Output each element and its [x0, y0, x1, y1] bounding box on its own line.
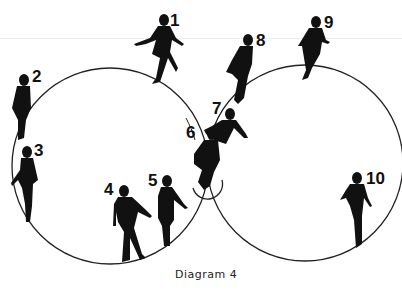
tracing-circles: [0, 0, 402, 290]
skater-label-6: 6: [186, 124, 195, 141]
skater-4-icon: [113, 185, 152, 262]
skater-label-5: 5: [148, 172, 157, 189]
skater-8-icon: [226, 34, 253, 104]
skater-5-icon: [158, 175, 188, 246]
skater-label-3: 3: [34, 142, 43, 159]
left-circle: [12, 68, 208, 264]
skater-label-4: 4: [104, 181, 113, 198]
diagram-caption: Diagram 4: [175, 268, 237, 281]
figure-eight-diagram: 1 2 3 4 5 6 7 8 9 10 Diagram 4: [0, 0, 402, 290]
skater-label-2: 2: [32, 68, 41, 85]
skater-label-1: 1: [170, 12, 179, 29]
skater-2-icon: [12, 74, 31, 140]
skater-label-8: 8: [256, 32, 265, 49]
skater-label-7: 7: [212, 100, 221, 117]
skater-label-10: 10: [366, 170, 385, 187]
skater-label-9: 9: [324, 14, 333, 31]
